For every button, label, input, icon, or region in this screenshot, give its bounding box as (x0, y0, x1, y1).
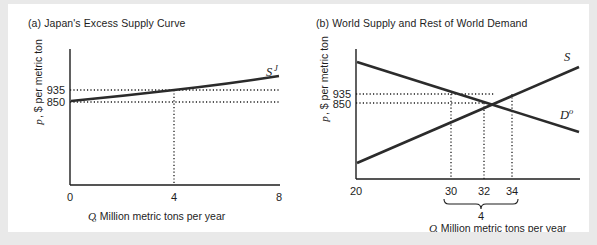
panel-b-xtick-32: 32 (478, 185, 490, 197)
figure-card: (a) Japan's Excess Supply Curve 935 850 (8, 4, 589, 232)
panel-b-demand-label-superscript: o (569, 106, 573, 116)
panel-b-curve-demand (357, 62, 579, 132)
panel-a-xtick-4: 4 (171, 191, 177, 203)
panel-a-xtick-8: 8 (276, 191, 282, 203)
panel-b-ylabel-variable: p (318, 116, 330, 123)
figure-root: (a) Japan's Excess Supply Curve 935 850 (0, 0, 597, 245)
panel-b-xtick-20: 20 (350, 185, 362, 197)
panel-b: (b) World Supply and Rest of World Deman… (298, 4, 589, 232)
panel-a-xtick-0: 0 (67, 191, 73, 203)
panel-b-xtick-34: 34 (506, 185, 518, 197)
panel-b-demand-label: D (559, 108, 569, 122)
panel-b-brace (444, 199, 518, 209)
panel-a-curve-excess-supply (71, 76, 279, 101)
panel-a-ylabel-text: , $ per metric ton (32, 39, 44, 118)
panel-a-ytick-935: 935 (47, 84, 65, 96)
panel-b-xlabel-text: , Million metric tons per year (435, 222, 567, 232)
panel-b-ylabel-text: , $ per metric ton (318, 36, 330, 115)
panel-a: (a) Japan's Excess Supply Curve 935 850 (8, 4, 298, 232)
panel-a-ytick-850: 850 (47, 96, 65, 108)
panel-a-curve-label: S (266, 65, 273, 79)
panel-b-brace-value: 4 (478, 210, 484, 222)
panel-b-supply-label: S (564, 50, 571, 64)
panel-a-ylabel-variable: p (32, 119, 44, 126)
panel-b-curve-supply (357, 67, 579, 163)
panel-b-xtick-30: 30 (445, 185, 457, 197)
panel-a-curve-label-superscript: J (274, 63, 279, 73)
panel-b-plot: 935 850 20 30 32 34 4 S D o p , $ per me… (298, 4, 589, 232)
panel-a-xlabel-text: , Million metric tons per year (94, 210, 226, 222)
panel-b-ytick-850: 850 (333, 98, 351, 110)
panel-a-plot: 935 850 0 4 8 S J p , $ per metric ton Q… (8, 4, 298, 232)
